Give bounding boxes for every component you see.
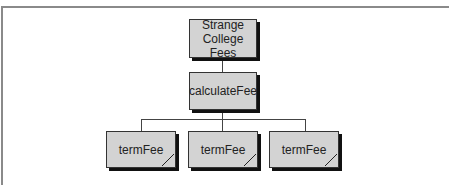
term-fee-label: termFee <box>201 143 246 157</box>
term-fee-box-1: termFee <box>106 131 176 168</box>
connector-child-3 <box>305 119 306 131</box>
root-label-line2: College Fees <box>190 32 256 60</box>
calculate-fee-label: calculateFee <box>189 84 257 98</box>
frame-left-border <box>1 6 3 185</box>
term-fee-label: termFee <box>282 143 327 157</box>
connector-middle-down <box>222 110 223 119</box>
connector-child-1 <box>141 119 142 131</box>
library-module-corner-icon <box>324 153 338 167</box>
calculate-fee-box: calculateFee <box>189 72 257 110</box>
root-module-box: Strange College Fees <box>189 19 257 58</box>
term-fee-box-2: termFee <box>188 131 258 168</box>
term-fee-label: termFee <box>119 143 164 157</box>
frame-top-border <box>1 6 449 8</box>
term-fee-box-3: termFee <box>269 131 339 168</box>
library-module-corner-icon <box>243 153 257 167</box>
connector-root-to-middle <box>222 58 223 72</box>
root-label-line1: Strange <box>202 18 244 32</box>
library-module-corner-icon <box>161 153 175 167</box>
connector-horizontal <box>141 119 306 120</box>
connector-child-2 <box>222 119 223 131</box>
